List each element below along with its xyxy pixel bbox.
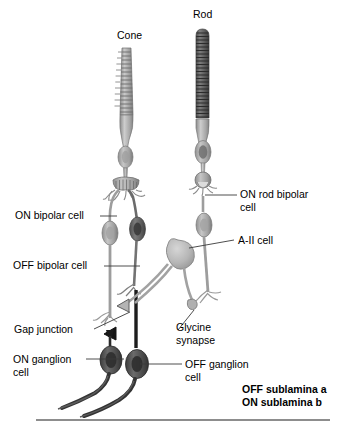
glycine-synapse-terminal (187, 299, 197, 310)
sublamina-label: OFF sublamina a ON sublamina b (242, 383, 327, 409)
retina-circuit-figure: Cone Rod ON bipolar cell OFF bipolar cel… (0, 0, 337, 431)
on-ganglion-label: ON ganglion cell (13, 353, 71, 378)
rod-photoreceptor (189, 29, 217, 196)
on-rod-bipolar-cell (191, 196, 221, 303)
off-bipolar-label: OFF bipolar cell (13, 259, 87, 272)
rod-title: Rod (193, 8, 212, 21)
gap-junction-label: Gap junction (14, 323, 73, 336)
a2-process-left (135, 266, 172, 303)
cone-photoreceptor (103, 48, 145, 201)
off-ganglion-axon (84, 379, 135, 416)
on-ganglion-axon (62, 374, 109, 408)
glycine-synapse-label: Glycine synapse (176, 321, 215, 346)
a2-cell-label: A-II cell (238, 234, 273, 247)
cone-pedicle (113, 177, 139, 190)
cone-terminal-tendrils (103, 190, 145, 201)
cone-title: Cone (117, 29, 142, 42)
leader-gap-junction (94, 312, 130, 329)
a2-process-right (184, 268, 192, 300)
off-ganglion-label: OFF ganglion cell (185, 358, 249, 383)
off-bipolar-cell (117, 190, 146, 348)
on-bipolar-label: ON bipolar cell (15, 209, 84, 222)
a2-amacrine-cell (122, 239, 197, 310)
leader-a2-cell (189, 240, 234, 248)
on-bipolar-cell (93, 190, 119, 326)
off-synapse-triangle (117, 299, 129, 312)
on-rod-bipolar-label: ON rod bipolar cell (240, 188, 308, 213)
